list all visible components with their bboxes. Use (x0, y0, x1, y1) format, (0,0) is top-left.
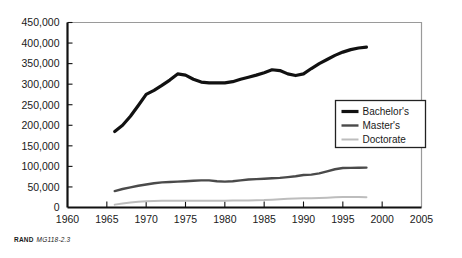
y-axis-tick-label: 250,000 (22, 99, 60, 111)
series-line-bachelors (115, 47, 367, 131)
y-axis-tick-label: 400,000 (22, 37, 60, 49)
x-axis-tick-label: 1980 (213, 213, 237, 225)
y-axis-tick-label: 50,000 (27, 181, 59, 193)
series-line-doctorate (115, 197, 367, 205)
source-organization: RAND (14, 236, 34, 243)
y-axis-tick-label: 200,000 (22, 119, 60, 131)
chart-figure: 050,000100,000150,000200,000250,000300,0… (0, 0, 462, 258)
x-axis-tick-label: 1985 (252, 213, 276, 225)
x-axis-tick-label: 1960 (56, 213, 80, 225)
legend-label-bachelors[interactable]: Bachelor's (363, 106, 409, 117)
x-axis-tick-label: 1970 (134, 213, 158, 225)
legend-label-masters[interactable]: Master's (363, 120, 400, 131)
y-axis-tick-label: 150,000 (22, 140, 60, 152)
y-axis-tick-label: 350,000 (22, 57, 60, 69)
y-axis-tick-label: 450,000 (22, 16, 60, 28)
x-axis-tick-label: 1990 (292, 213, 316, 225)
series-line-masters (115, 168, 367, 191)
source-note: RANDMG118-2.3 (14, 236, 70, 243)
x-axis-tick-label: 1965 (95, 213, 119, 225)
x-axis-tick-label: 1995 (331, 213, 355, 225)
education-degrees-line-chart: 050,000100,000150,000200,000250,000300,0… (0, 0, 462, 258)
y-axis-tick-label: 100,000 (22, 160, 60, 172)
source-identifier: MG118-2.3 (37, 236, 71, 243)
legend-label-doctorate[interactable]: Doctorate (363, 134, 407, 145)
x-axis-tick-label: 2005 (410, 213, 434, 225)
y-axis-tick-label: 300,000 (22, 78, 60, 90)
y-axis-tick-label: 0 (54, 201, 60, 213)
x-axis-tick-label: 2000 (370, 213, 394, 225)
x-axis-tick-label: 1975 (174, 213, 198, 225)
